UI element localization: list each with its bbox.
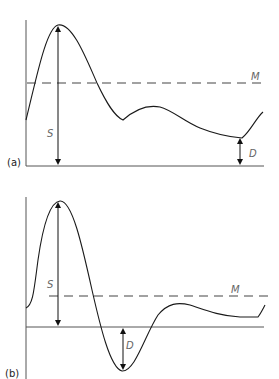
panel-label-a: (a) xyxy=(7,157,21,168)
waveform-a xyxy=(26,25,263,138)
waveform-b xyxy=(26,201,265,371)
diastolic-label-b: D xyxy=(126,340,134,351)
mean-label-b: M xyxy=(231,284,240,295)
diagram: S M D (a) S M D (b) xyxy=(0,0,279,379)
panel-a: S M D (a) xyxy=(7,20,266,168)
diastolic-label-a: D xyxy=(249,148,257,159)
systolic-label-b: S xyxy=(47,279,54,290)
panel-label-b: (b) xyxy=(5,368,19,379)
mean-label-a: M xyxy=(251,71,260,82)
panel-b: S M D (b) xyxy=(5,197,268,379)
systolic-label-a: S xyxy=(47,128,54,139)
